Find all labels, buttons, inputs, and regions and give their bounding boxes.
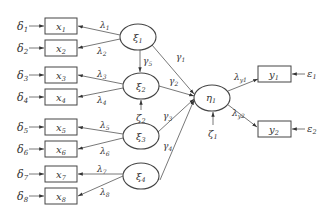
lambda-y-arrows xyxy=(227,79,258,127)
lambda-y2-label: λy2 xyxy=(231,108,245,120)
epsilon-errors: ε1 ε2 xyxy=(292,68,317,136)
x-labels: x1 x2 x3 x4 x5 x6 x7 x8 xyxy=(56,21,67,204)
lambda-4-label: λ4 xyxy=(96,95,107,106)
lambda-1-label: λ1 xyxy=(99,20,110,31)
lambda-7-label: λ7 xyxy=(96,164,107,175)
eta1-node: η1 xyxy=(194,85,230,111)
lambda-2-label: λ2 xyxy=(96,46,107,57)
lambda-y-labels: λy1 λy2 xyxy=(231,72,247,120)
delta-7-label: δ7 xyxy=(17,168,29,182)
delta-8-label: δ8 xyxy=(17,190,29,204)
delta-1-label: δ1 xyxy=(17,20,28,34)
xi-ellipses xyxy=(120,24,159,189)
lambda-y1-label: λy1 xyxy=(233,72,247,84)
gamma-2-label: γ2 xyxy=(169,76,178,87)
epsilon-1-label: ε1 xyxy=(307,68,317,81)
gamma-5-label: γ5 xyxy=(143,56,152,67)
gamma-4-label: γ4 xyxy=(163,141,172,152)
gamma-3-label: γ3 xyxy=(163,111,172,122)
xi-labels: ξ1 ξ2 ξ3 ξ4 xyxy=(133,32,146,184)
delta-2-label: δ2 xyxy=(17,42,29,56)
y-boxes: y1 y2 xyxy=(258,66,291,137)
delta-3-label: δ3 xyxy=(17,69,29,83)
lambda-8-label: λ8 xyxy=(99,187,110,198)
gamma-1-label: γ1 xyxy=(176,52,185,63)
zeta1-label: ζ1 xyxy=(208,128,218,141)
lambda-x-labels: λ1 λ2 λ3 λ4 λ5 λ6 λ7 λ8 xyxy=(96,20,110,198)
lambda-3-label: λ3 xyxy=(96,69,107,80)
zeta2-disturbance: ζ2 xyxy=(136,100,146,125)
lambda-6-label: λ6 xyxy=(99,146,110,157)
delta-labels: δ1 δ2 δ3 δ4 δ5 δ6 δ7 δ8 xyxy=(17,20,29,204)
delta-6-label: δ6 xyxy=(17,143,29,157)
delta-4-label: δ4 xyxy=(17,91,28,105)
lambda-5-label: λ5 xyxy=(99,120,110,131)
epsilon-2-label: ε2 xyxy=(307,123,317,136)
delta-5-label: δ5 xyxy=(17,121,29,135)
sem-path-diagram: δ1 δ2 δ3 δ4 δ5 δ6 δ7 δ8 x1 x2 x3 x4 x5 x… xyxy=(0,0,333,210)
zeta1-disturbance: ζ1 xyxy=(208,112,218,141)
delta-arrows xyxy=(29,26,44,196)
